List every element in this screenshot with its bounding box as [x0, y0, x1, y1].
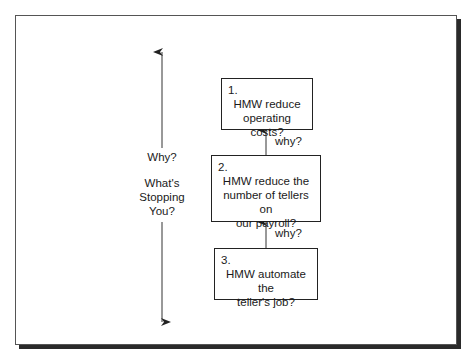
- connector-label-1: why?: [275, 134, 315, 148]
- box-3-number: 3.: [221, 253, 311, 267]
- axis-label-whats-stopping: What's Stopping You?: [127, 176, 197, 218]
- axis-label-why: Why?: [132, 150, 192, 164]
- box-2: 2. HMW reduce the number of tellers on o…: [211, 155, 321, 222]
- box-2-number: 2.: [218, 160, 314, 174]
- box-1: 1. HMW reduce operating costs?: [221, 78, 313, 130]
- connector-label-2: why?: [275, 226, 315, 240]
- box-1-number: 1.: [228, 83, 306, 97]
- box-3: 3. HMW automate the teller's job?: [214, 248, 318, 300]
